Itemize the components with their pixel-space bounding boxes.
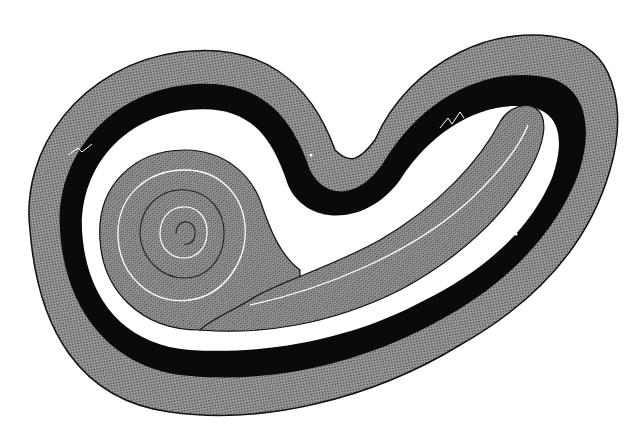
illustration-svg bbox=[0, 0, 636, 433]
coiled-structure-illustration bbox=[0, 0, 636, 433]
